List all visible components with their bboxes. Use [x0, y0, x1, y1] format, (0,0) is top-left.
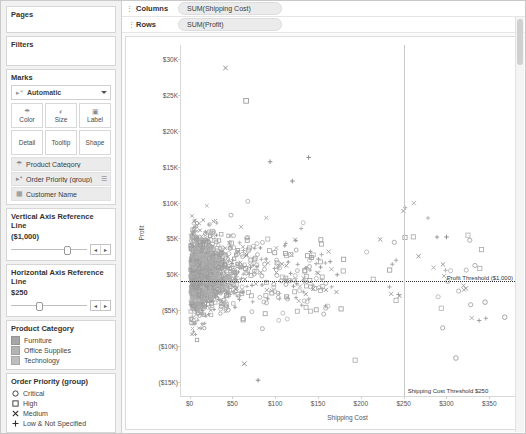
- scatter-mark-circle[interactable]: [203, 326, 206, 329]
- scatter-mark-circle[interactable]: [365, 250, 369, 254]
- scatter-mark-circle[interactable]: [260, 274, 264, 278]
- scatter-mark-plus[interactable]: [233, 305, 237, 309]
- scatter-mark-cross[interactable]: [431, 266, 435, 270]
- stepper-next-button[interactable]: ▸: [101, 301, 110, 310]
- scatter-mark-plus[interactable]: [319, 253, 323, 257]
- scatter-mark-square[interactable]: [318, 260, 322, 264]
- scatter-mark-plus[interactable]: [250, 283, 254, 287]
- parameter-stepper[interactable]: ◂ ▸: [90, 244, 111, 255]
- scatter-mark-plus[interactable]: [387, 285, 391, 289]
- legend-item[interactable]: High: [11, 398, 111, 408]
- scatter-mark-square[interactable]: [241, 317, 245, 321]
- scatter-mark-cross[interactable]: [239, 225, 243, 229]
- scatter-mark-circle[interactable]: [258, 295, 262, 299]
- scatter-mark-plus[interactable]: [256, 378, 261, 383]
- vertical-scrollbar[interactable]: [515, 17, 524, 432]
- scatter-mark-cross[interactable]: [417, 254, 421, 258]
- scatter-mark-circle[interactable]: [301, 221, 305, 225]
- scatter-mark-plus[interactable]: [307, 297, 311, 301]
- stepper-prev-button[interactable]: ◂: [91, 301, 101, 310]
- scatter-mark-cross[interactable]: [223, 66, 228, 71]
- scatter-mark-circle[interactable]: [441, 326, 445, 330]
- scatter-mark-circle[interactable]: [240, 285, 244, 289]
- scatter-mark-circle[interactable]: [293, 274, 297, 278]
- scatter-mark-circle[interactable]: [260, 240, 264, 244]
- scatter-mark-cross[interactable]: [334, 290, 338, 294]
- scatter-mark-cross[interactable]: [198, 229, 201, 232]
- scatter-mark-circle[interactable]: [468, 238, 472, 242]
- legend-item[interactable]: Medium: [11, 408, 111, 418]
- shipping-cost-threshold-reference-line[interactable]: Shipping Cost Threshold $250: [404, 45, 405, 396]
- scatter-mark-square[interactable]: [339, 307, 343, 311]
- legend-item[interactable]: Critical: [11, 388, 111, 398]
- scatter-mark-plus[interactable]: [296, 262, 300, 266]
- legend-item[interactable]: Low & Not Specified: [11, 418, 111, 428]
- scatter-mark-plus[interactable]: [330, 285, 334, 289]
- scatter-mark-square[interactable]: [267, 249, 271, 253]
- label-button[interactable]: ▣ Label: [79, 103, 111, 128]
- scatter-mark-square[interactable]: [479, 248, 483, 252]
- parameter-stepper[interactable]: ◂ ▸: [90, 300, 111, 311]
- scatter-mark-plus[interactable]: [306, 155, 311, 160]
- scatter-mark-plus[interactable]: [194, 333, 197, 336]
- scatter-mark-cross[interactable]: [327, 250, 331, 254]
- scatter-mark-plus[interactable]: [272, 266, 276, 270]
- scatter-mark-circle[interactable]: [264, 301, 268, 305]
- scatter-mark-square[interactable]: [263, 312, 267, 316]
- scatter-mark-circle[interactable]: [219, 312, 222, 315]
- scatter-mark-cross[interactable]: [202, 218, 205, 221]
- scatter-mark-plus[interactable]: [319, 265, 323, 269]
- scatter-mark-square[interactable]: [304, 284, 308, 288]
- scatter-mark-square[interactable]: [478, 266, 482, 270]
- scatter-mark-plus[interactable]: [390, 262, 394, 266]
- scatter-mark-circle[interactable]: [221, 246, 224, 249]
- legend-item[interactable]: Furniture: [11, 335, 111, 345]
- scatter-mark-cross[interactable]: [241, 245, 245, 249]
- scatter-mark-square[interactable]: [295, 309, 299, 313]
- scatter-mark-circle[interactable]: [294, 248, 298, 252]
- scatter-mark-plus[interactable]: [314, 262, 318, 266]
- scatter-mark-square[interactable]: [305, 254, 309, 258]
- scatter-mark-plus[interactable]: [212, 308, 215, 311]
- scatter-mark-cross[interactable]: [378, 237, 382, 241]
- scatter-mark-circle[interactable]: [277, 318, 281, 322]
- scatter-mark-plus[interactable]: [426, 216, 430, 220]
- scatter-mark-square[interactable]: [308, 309, 312, 313]
- scatter-mark-plus[interactable]: [253, 246, 257, 250]
- scatter-mark-square[interactable]: [195, 338, 198, 341]
- marks-pill-product-category[interactable]: ☂ Product Category: [11, 157, 111, 171]
- scatter-mark-cross[interactable]: [205, 204, 208, 207]
- detail-button[interactable]: Detail: [11, 130, 43, 155]
- scatter-mark-plus[interactable]: [268, 159, 273, 164]
- shape-button[interactable]: Shape: [79, 130, 111, 155]
- scatter-mark-plus[interactable]: [300, 303, 304, 307]
- scatter-mark-plus[interactable]: [335, 273, 339, 277]
- scatter-mark-circle[interactable]: [469, 303, 473, 307]
- legend-item[interactable]: Office Supplies: [11, 345, 111, 355]
- scatter-mark-circle[interactable]: [483, 300, 488, 305]
- scatter-mark-cross[interactable]: [254, 282, 258, 286]
- plot-area[interactable]: $30K$25K$20K$15K$10K$5K$0K($5K)($10K)($1…: [180, 45, 515, 397]
- marks-pill-customer-name[interactable]: ▦ Customer Name: [11, 187, 111, 201]
- scatter-mark-circle[interactable]: [502, 315, 507, 320]
- scatter-mark-plus[interactable]: [435, 235, 439, 239]
- stepper-next-button[interactable]: ▸: [101, 245, 110, 254]
- scatter-mark-circle[interactable]: [298, 289, 302, 293]
- scatter-mark-plus[interactable]: [260, 283, 264, 287]
- scatter-mark-square[interactable]: [411, 235, 415, 239]
- scatter-mark-circle[interactable]: [229, 213, 233, 217]
- scatter-mark-circle[interactable]: [281, 311, 285, 315]
- scatter-mark-square[interactable]: [388, 268, 392, 272]
- scatter-mark-circle[interactable]: [314, 276, 318, 280]
- scatter-mark-plus[interactable]: [239, 277, 243, 281]
- scatter-mark-plus[interactable]: [291, 284, 295, 288]
- scatter-mark-square[interactable]: [319, 242, 323, 246]
- stepper-prev-button[interactable]: ◂: [91, 245, 101, 254]
- scatter-mark-circle[interactable]: [255, 242, 259, 246]
- scatter-mark-plus[interactable]: [215, 234, 218, 237]
- scatter-mark-plus[interactable]: [215, 221, 218, 224]
- scatter-mark-square[interactable]: [314, 308, 318, 312]
- scatter-mark-circle[interactable]: [262, 267, 266, 271]
- columns-shelf[interactable]: ⋮⋮ Columns SUM(Shipping Cost): [122, 1, 525, 17]
- scatter-mark-square[interactable]: [244, 99, 249, 104]
